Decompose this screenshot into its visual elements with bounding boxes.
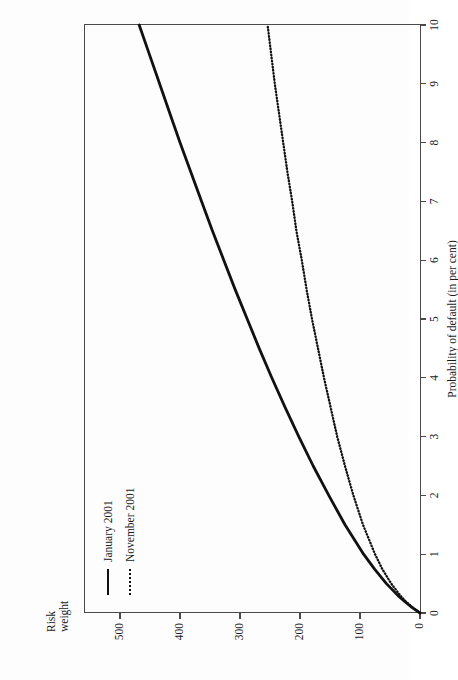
y-tick-label: 300	[234, 623, 246, 640]
y-tick-label: 100	[354, 623, 366, 640]
legend-item-label: January 2001	[101, 500, 113, 562]
series-line-2	[267, 25, 419, 613]
y-tick	[239, 613, 240, 619]
y-tick-label: 400	[174, 623, 186, 640]
x-tick	[420, 495, 426, 496]
x-tick-label: 2	[429, 493, 441, 499]
y-tick	[299, 613, 300, 619]
x-axis-title: Probability of default (in per cent)	[446, 240, 458, 397]
chart-legend: January 2001November 2001	[100, 488, 144, 595]
x-tick	[420, 24, 426, 25]
x-tick-label: 1	[429, 551, 441, 557]
x-tick-label: 10	[429, 19, 441, 31]
legend-item[interactable]: November 2001	[122, 488, 137, 595]
y-axis-title: Risk weight	[45, 601, 71, 632]
x-tick-label: 5	[429, 316, 441, 322]
y-tick-label: 0	[414, 623, 426, 629]
y-tick	[179, 613, 180, 619]
x-tick	[420, 377, 426, 378]
x-tick-label: 8	[429, 140, 441, 146]
y-tick	[359, 613, 360, 619]
chart-canvas: Risk weight Probability of default (in p…	[37, 46, 373, 634]
x-tick	[420, 318, 426, 319]
legend-dotted-line-icon	[128, 569, 130, 595]
x-tick	[420, 260, 426, 261]
y-axis-title-line1: Risk	[45, 601, 58, 632]
plot-area: January 2001November 2001	[84, 25, 420, 613]
y-tick-label: 200	[294, 623, 306, 640]
legend-item[interactable]: January 2001	[100, 488, 115, 595]
x-tick	[420, 554, 426, 555]
x-tick-label: 7	[429, 199, 441, 205]
x-tick-label: 0	[429, 610, 441, 616]
x-tick-label: 3	[429, 434, 441, 440]
x-tick	[420, 83, 426, 84]
x-tick-label: 4	[429, 375, 441, 381]
y-tick	[119, 613, 120, 619]
x-tick-label: 9	[429, 81, 441, 87]
x-tick	[420, 436, 426, 437]
x-tick-label: 6	[429, 257, 441, 263]
y-tick-label: 500	[114, 623, 126, 640]
x-tick	[420, 201, 426, 202]
x-tick	[420, 142, 426, 143]
legend-solid-line-icon	[106, 569, 108, 595]
legend-item-label: November 2001	[123, 488, 135, 562]
y-axis-title-line2: weight	[57, 601, 70, 632]
